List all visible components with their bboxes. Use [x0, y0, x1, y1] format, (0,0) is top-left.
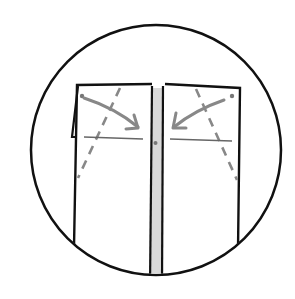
diagram-stage [0, 0, 295, 299]
right-corner-dot [230, 94, 234, 98]
center-strip [150, 86, 163, 285]
center-dot-marker [154, 141, 158, 145]
sewing-diagram [0, 0, 295, 299]
